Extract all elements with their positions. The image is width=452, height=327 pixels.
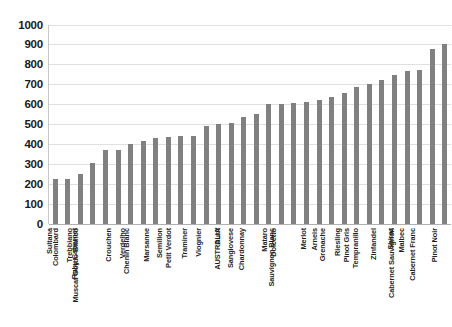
bar bbox=[254, 114, 259, 224]
x-axis-tick-label-text: Zinfandel bbox=[368, 228, 377, 260]
x-axis-tick-label: Chenin Blanc bbox=[123, 182, 132, 228]
x-axis-tick-label: Sauvignon Blanc bbox=[267, 170, 276, 228]
x-axis-tick-label: Sangiovese bbox=[226, 188, 235, 228]
x-axis-tick-label-text: Pinot Gris bbox=[342, 228, 351, 262]
x-axis-tick-label: Cabernet Franc bbox=[408, 175, 417, 228]
y-axis-tick-label: 900 bbox=[24, 38, 43, 50]
x-axis-tick-label-text: Viognier bbox=[194, 228, 203, 257]
bar-slot bbox=[150, 25, 163, 225]
x-axis-tick-label-text: Cabernet Sauvignon bbox=[387, 228, 396, 298]
bar-slot bbox=[288, 25, 301, 225]
y-axis-tick-label: 0 bbox=[37, 218, 43, 230]
y-axis-tick-label: 1000 bbox=[18, 19, 43, 31]
x-axis-tick-label: Merlot bbox=[298, 206, 307, 228]
bar-slot bbox=[175, 25, 188, 225]
x-axis-tick-label-text: AUSTRALIA bbox=[213, 228, 222, 270]
x-axis-tick-label: Muscat Gordo Blanco bbox=[71, 154, 80, 228]
x-label-slot: Pinot Noir bbox=[437, 226, 450, 327]
x-axis-tick-label: Grenache bbox=[318, 195, 327, 228]
y-axis-tick-label: 200 bbox=[24, 178, 43, 190]
y-axis-tick-label: 400 bbox=[24, 138, 43, 150]
x-axis-labels: SultanaColombardTrebbianoRuby CabernetMu… bbox=[48, 226, 450, 327]
bar bbox=[291, 103, 296, 224]
y-axis-tick-label: 500 bbox=[24, 118, 43, 130]
x-axis-tick-label-text: Traminer bbox=[181, 228, 190, 258]
x-axis-tick-label-text: Sauvignon Blanc bbox=[267, 228, 276, 286]
y-axis-tick-label: 800 bbox=[24, 58, 43, 70]
x-label-slot: Sauvignon Blanc bbox=[287, 226, 300, 327]
y-axis-tick-label: 600 bbox=[24, 98, 43, 110]
x-axis-tick-label: Pinot Noir bbox=[430, 194, 439, 228]
x-axis-tick-label: Malbec bbox=[397, 204, 406, 228]
bar-slot bbox=[376, 25, 389, 225]
bar-slot bbox=[275, 25, 288, 225]
x-label-slot: Ruby Cabernet bbox=[86, 226, 99, 327]
x-axis-tick-label: Riesling bbox=[333, 200, 342, 228]
bar-slot bbox=[325, 25, 338, 225]
x-axis-tick-label: Marsanne bbox=[141, 194, 150, 228]
x-axis-tick-label-text: Malbec bbox=[397, 228, 406, 252]
bar-slot bbox=[200, 25, 213, 225]
x-axis-tick-label: Pinot Gris bbox=[342, 194, 351, 228]
x-axis-tick-label-text: Petit Verdot bbox=[163, 228, 172, 268]
bar bbox=[379, 80, 384, 224]
bar-slot bbox=[438, 25, 451, 225]
x-axis-tick-label-text: Crouchen bbox=[104, 228, 113, 262]
x-label-slot: Viognier bbox=[199, 226, 212, 327]
x-axis-tick-label-text: Sangiovese bbox=[226, 228, 235, 268]
bar bbox=[279, 104, 284, 224]
y-axis: 01002003004005006007008009001000 bbox=[0, 0, 48, 327]
x-axis-tick-label: Petit Verdot bbox=[163, 188, 172, 228]
bar-slot bbox=[87, 25, 100, 225]
x-axis-tick-label: Cabernet Sauvignon bbox=[387, 158, 396, 228]
x-axis-tick-label-text: Pinot Noir bbox=[430, 228, 439, 262]
x-axis-tick-label: AUSTRALIA bbox=[213, 186, 222, 228]
x-axis-tick-label-text: Grenache bbox=[318, 228, 327, 261]
x-axis-tick-label: Colombard bbox=[51, 190, 60, 228]
x-axis-tick-label: Zinfandel bbox=[368, 196, 377, 228]
x-axis-tick-label-text: Tempranillo bbox=[352, 228, 361, 268]
x-axis-tick-label: Crouchen bbox=[104, 194, 113, 228]
x-axis-tick-label-text: Chardonnay bbox=[238, 228, 247, 270]
x-axis-tick-label-text: Colombard bbox=[51, 228, 60, 266]
x-axis-tick-label-text: Cabernet Franc bbox=[408, 228, 417, 281]
x-axis-tick-label-text: Chenin Blanc bbox=[123, 228, 132, 274]
x-axis-tick-label: Tempranillo bbox=[352, 188, 361, 228]
bar bbox=[90, 163, 95, 224]
x-axis-tick-label: Chardonnay bbox=[238, 186, 247, 228]
y-axis-tick-label: 700 bbox=[24, 78, 43, 90]
x-axis-tick-label: Traminer bbox=[181, 198, 190, 228]
bar bbox=[417, 70, 422, 224]
y-axis-tick-label: 100 bbox=[24, 198, 43, 210]
bar bbox=[204, 126, 209, 224]
bar bbox=[442, 44, 447, 224]
x-axis-tick-label: Viognier bbox=[194, 199, 203, 228]
x-axis-tick-label-text: Riesling bbox=[333, 228, 342, 256]
bar-slot bbox=[363, 25, 376, 225]
bar-chart: 01002003004005006007008009001000 Sultana… bbox=[0, 0, 452, 327]
bar-slot bbox=[300, 25, 313, 225]
x-axis-tick-label-text: Marsanne bbox=[141, 228, 150, 262]
bar-slot bbox=[250, 25, 263, 225]
x-axis-tick-label-text: Muscat Gordo Blanco bbox=[71, 228, 80, 302]
x-axis-tick-label-text: Merlot bbox=[298, 228, 307, 250]
y-axis-tick-label: 300 bbox=[24, 158, 43, 170]
bar-slot bbox=[187, 25, 200, 225]
